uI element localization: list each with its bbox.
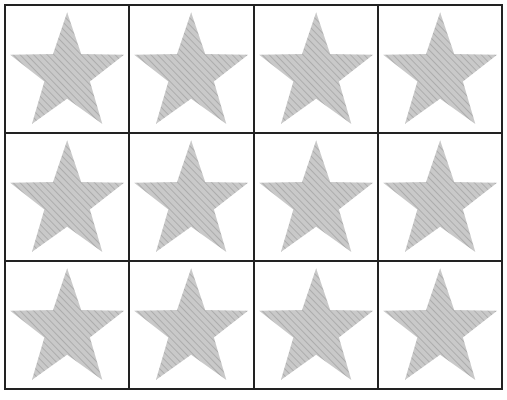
- grid-cell: [254, 261, 378, 389]
- star-icon: [379, 6, 501, 132]
- star-icon: [6, 262, 128, 388]
- grid-cell: [254, 133, 378, 261]
- star-icon: [130, 6, 252, 132]
- grid-cell: [129, 133, 253, 261]
- grid-cell: [129, 5, 253, 133]
- star-icon: [6, 134, 128, 260]
- star-icon: [255, 6, 377, 132]
- star-icon: [255, 134, 377, 260]
- star-icon: [130, 262, 252, 388]
- star-icon: [6, 6, 128, 132]
- grid-cell: [5, 133, 129, 261]
- grid-cell: [378, 133, 502, 261]
- star-icon: [379, 134, 501, 260]
- star-grid: [4, 4, 503, 390]
- grid-cell: [129, 261, 253, 389]
- star-icon: [255, 262, 377, 388]
- grid-cell: [5, 261, 129, 389]
- grid-cell: [378, 5, 502, 133]
- grid-cell: [5, 5, 129, 133]
- grid-cell: [254, 5, 378, 133]
- star-icon: [130, 134, 252, 260]
- star-icon: [379, 262, 501, 388]
- grid-cell: [378, 261, 502, 389]
